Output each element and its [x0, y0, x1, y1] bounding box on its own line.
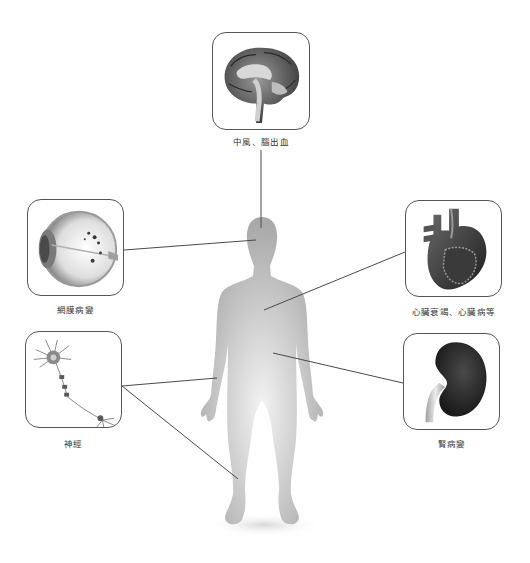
brain-label: 中風、腦出血: [212, 135, 310, 147]
heart-icon: [406, 201, 501, 296]
heart-connector-line: [264, 252, 405, 310]
nerve-panel: [25, 331, 122, 428]
nerve-arm-connector-line: [122, 378, 217, 386]
brain-panel: [212, 32, 310, 130]
kidney-icon: [404, 334, 499, 429]
kidney-panel: [403, 333, 500, 430]
brain-icon: [213, 33, 309, 129]
nerve-label: 神經: [25, 437, 122, 449]
eye-icon: [28, 200, 123, 295]
kidney-label: 腎病變: [403, 437, 500, 449]
nerve-leg-connector-line: [122, 386, 238, 479]
eye-label: 網膜病變: [27, 303, 124, 315]
eye-panel: [27, 199, 124, 296]
neuron-icon: [26, 332, 121, 427]
complications-diagram: 中風、腦出血 網膜病變: [0, 0, 530, 563]
heart-label: 心臟衰竭、心臟病等: [395, 305, 512, 317]
kidney-connector-line: [273, 353, 403, 383]
eye-connector-line: [124, 240, 256, 250]
heart-panel: [405, 200, 502, 297]
